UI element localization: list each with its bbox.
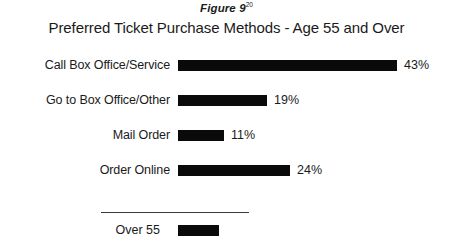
figure-caption: Figure 920: [0, 1, 453, 14]
figure-caption-superscript: 20: [246, 1, 253, 8]
bar: [178, 95, 267, 106]
legend-color-swatch: [178, 225, 219, 236]
chart-row: Go to Box Office/Other 19%: [0, 93, 453, 119]
figure-caption-label: Figure 9: [200, 2, 246, 14]
chart-row: Call Box Office/Service 43%: [0, 58, 453, 84]
legend-series-label: Over 55: [60, 223, 160, 237]
category-label: Call Box Office/Service: [0, 58, 170, 72]
category-label: Go to Box Office/Other: [0, 93, 170, 107]
bar-value-label: 11%: [231, 128, 255, 142]
legend-divider: [101, 212, 249, 213]
bar-value-label: 24%: [297, 163, 322, 177]
chart-row: Order Online 24%: [0, 163, 453, 189]
chart-title: Preferred Ticket Purchase Methods - Age …: [0, 19, 453, 36]
bar: [178, 130, 224, 141]
chart-legend: Over 55: [0, 206, 453, 244]
bar-chart-plot-area: Call Box Office/Service 43% Go to Box Of…: [0, 58, 453, 188]
category-label: Mail Order: [0, 128, 170, 142]
bar: [178, 165, 290, 176]
bar: [178, 60, 397, 71]
category-label: Order Online: [0, 163, 170, 177]
bar-value-label: 43%: [404, 58, 429, 72]
bar-value-label: 19%: [274, 93, 299, 107]
chart-row: Mail Order 11%: [0, 128, 453, 154]
figure-container: Figure 920 Preferred Ticket Purchase Met…: [0, 0, 453, 244]
